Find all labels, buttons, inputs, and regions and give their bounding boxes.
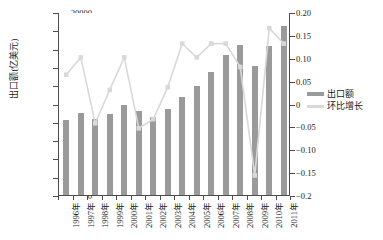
x-tick-mark: [145, 196, 146, 200]
growth-marker-2001年: [136, 126, 141, 131]
growth-marker-2009年: [252, 173, 257, 178]
growth-marker-2010年: [267, 26, 272, 31]
x-axis-label-1999年: 1999年: [113, 202, 125, 228]
chart-legend: 出口额环比增长: [307, 88, 363, 112]
y-tick-right-label: 0.15: [296, 31, 311, 41]
y-tick-right-label: 0.20: [296, 8, 311, 18]
legend-item-环比增长: 环比增长: [307, 100, 363, 112]
x-tick-mark: [116, 196, 117, 200]
x-tick-mark: [73, 196, 74, 200]
x-axis-label-2009年: 2009年: [258, 202, 270, 228]
growth-marker-2004年: [180, 41, 185, 46]
plot-area: [58, 13, 290, 196]
x-axis-label-1996年: 1996年: [69, 202, 81, 228]
x-axis-label-1998年: 1998年: [98, 202, 110, 228]
growth-marker-2006年: [209, 41, 214, 46]
x-axis-label-2008年: 2008年: [243, 202, 255, 228]
export-value-growth-chart: 出口额(亿美元) 0200040006000800010000120001400…: [0, 0, 383, 240]
x-axis-label-2002年: 2002年: [156, 202, 168, 228]
x-tick-mark: [232, 196, 233, 200]
x-tick-mark: [276, 196, 277, 200]
x-axis-label-2001年: 2001年: [142, 202, 154, 228]
growth-marker-1998年: [93, 121, 98, 126]
x-axis-label-2000年: 2000年: [127, 202, 139, 228]
growth-marker-2011年: [281, 41, 286, 46]
x-tick-mark: [261, 196, 262, 200]
x-tick-mark: [174, 196, 175, 200]
growth-marker-1997年: [78, 55, 83, 60]
x-axis-label-2003年: 2003年: [171, 202, 183, 228]
y-axis-left-title: 出口额(亿美元): [7, 4, 20, 134]
growth-marker-2002年: [151, 117, 156, 122]
line-series-layer: [59, 13, 289, 195]
growth-marker-1999年: [107, 88, 112, 93]
x-axis-label-2010年: 2010年: [272, 202, 284, 228]
x-axis-label-2005年: 2005年: [200, 202, 212, 228]
growth-marker-2003年: [165, 85, 170, 90]
x-axis-label-2007年: 2007年: [229, 202, 241, 228]
growth-marker-2000年: [122, 55, 127, 60]
bar-swatch: [307, 92, 324, 96]
legend-label: 出口额: [327, 89, 354, 100]
x-tick-mark: [131, 196, 132, 200]
x-tick-mark: [102, 196, 103, 200]
y-tick-right-label: −0.2: [296, 191, 311, 201]
x-axis-label-1997年: 1997年: [84, 202, 96, 228]
x-tick-mark: [247, 196, 248, 200]
x-tick-mark: [189, 196, 190, 200]
x-tick-mark: [290, 196, 291, 200]
x-tick-mark: [87, 196, 88, 200]
x-axis-label-2006年: 2006年: [214, 202, 226, 228]
y-tick-right-label: 0.10: [296, 54, 311, 64]
growth-marker-2005年: [194, 55, 199, 60]
growth-marker-2008年: [238, 65, 243, 70]
growth-marker-1996年: [64, 72, 69, 77]
growth-marker-2007年: [223, 41, 228, 46]
x-tick-mark: [58, 196, 59, 200]
y-tick-right-label: −0.05: [296, 122, 316, 132]
growth-line: [59, 13, 291, 196]
x-tick-mark: [160, 196, 161, 200]
legend-label: 环比增长: [327, 101, 363, 112]
y-tick-right-label: −0.15: [296, 168, 316, 178]
x-axis-label-2004年: 2004年: [185, 202, 197, 228]
x-tick-mark: [218, 196, 219, 200]
growth-line-path: [66, 28, 284, 175]
line-swatch: [307, 105, 324, 108]
y-tick-right-label: −0.10: [296, 145, 316, 155]
x-tick-mark: [203, 196, 204, 200]
y-tick-right-label: 0: [296, 100, 300, 110]
x-axis-label-2011年: 2011年: [287, 202, 299, 228]
y-tick-right-label: 0.05: [296, 77, 311, 87]
legend-item-出口额: 出口额: [307, 88, 363, 100]
